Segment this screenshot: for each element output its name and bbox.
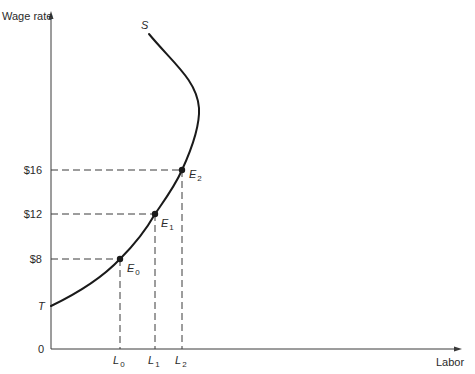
x-axis-arrow-icon (454, 347, 462, 352)
x-tick-l1: L1 (148, 354, 160, 368)
labor-supply-diagram: Wage rate Labor 0 $16 $12 $8 T S E0 E1 E… (0, 0, 475, 374)
x-tick-l0: L0 (113, 354, 125, 368)
x-tick-l2: L2 (175, 354, 187, 368)
point-label-e2: E2 (189, 168, 202, 182)
point-e2 (179, 167, 185, 173)
curve-label-s: S (141, 19, 148, 31)
point-label-e1-subscript: 1 (169, 223, 173, 232)
point-label-e0: E0 (127, 262, 140, 276)
x-tick-l0-subscript: 0 (120, 360, 124, 369)
x-tick-l0-letter: L (113, 354, 119, 366)
point-label-e1: E1 (161, 217, 174, 231)
point-label-e2-letter: E (189, 168, 196, 180)
point-label-e2-subscript: 2 (197, 174, 201, 183)
y-tick-12: $12 (6, 208, 42, 220)
point-e0 (117, 256, 123, 262)
point-label-e0-subscript: 0 (135, 268, 139, 277)
point-e1 (152, 211, 158, 217)
x-axis-label: Labor (436, 356, 464, 368)
point-label-e1-letter: E (161, 217, 168, 229)
x-tick-l2-subscript: 2 (182, 360, 186, 369)
x-tick-l1-subscript: 1 (155, 360, 159, 369)
intercept-label-t: T (38, 300, 45, 312)
diagram-canvas (0, 0, 475, 374)
y-tick-8: $8 (6, 253, 42, 265)
point-label-e0-letter: E (127, 262, 134, 274)
origin-label: 0 (38, 343, 44, 355)
y-tick-16: $16 (6, 164, 42, 176)
x-tick-l1-letter: L (148, 354, 154, 366)
x-tick-l2-letter: L (175, 354, 181, 366)
y-axis-label: Wage rate (2, 10, 52, 22)
